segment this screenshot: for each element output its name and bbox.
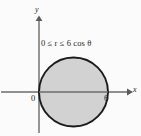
- figure-canvas: [0, 0, 141, 136]
- tick-label-six: 6: [104, 94, 108, 103]
- axis-label-y: y: [35, 6, 39, 14]
- region-inequality-label: 0 ≤ r ≤ 6 cos θ: [41, 39, 91, 48]
- axis-label-x: x: [133, 86, 137, 94]
- y-axis-arrowhead: [36, 16, 43, 22]
- tick-label-origin: 0: [31, 94, 35, 103]
- polar-region-figure: y x 0 6 0 ≤ r ≤ 6 cos θ: [0, 0, 141, 136]
